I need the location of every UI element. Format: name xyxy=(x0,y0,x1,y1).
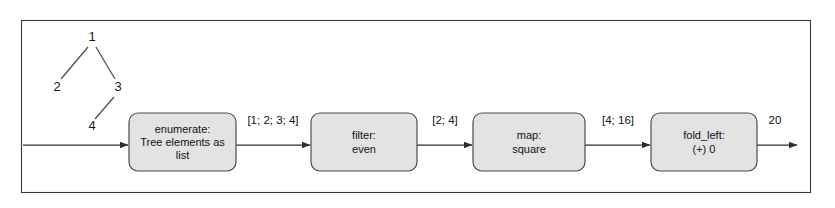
diagram-canvas: 1 2 3 4 enumerate: Tree elements as list… xyxy=(0,0,835,208)
tree-edge-3-4 xyxy=(95,97,114,119)
stage-map-box[interactable] xyxy=(473,113,585,171)
tree-node-1: 1 xyxy=(88,29,95,44)
stage-fold-left-line-1: fold_left: xyxy=(683,129,725,141)
stage-filter-line-1: filter: xyxy=(352,129,376,141)
label-squared-list: [4; 16] xyxy=(602,114,634,126)
stage-fold-left-line-2: (+) 0 xyxy=(693,143,716,155)
tree-edge-1-2 xyxy=(61,47,88,79)
stage-filter-box[interactable] xyxy=(311,113,417,171)
stage-enumerate-line-1: enumerate: xyxy=(155,123,211,135)
stage-fold-left[interactable]: fold_left: (+) 0 xyxy=(651,113,757,171)
tree-graphic: 1 2 3 4 xyxy=(53,29,121,133)
stage-filter-line-2: even xyxy=(352,143,376,155)
stage-map-line-1: map: xyxy=(517,129,541,141)
tree-edge-1-3 xyxy=(96,47,115,79)
stage-fold-left-box[interactable] xyxy=(651,113,757,171)
stage-enumerate-line-3: list xyxy=(176,149,189,161)
stage-enumerate-line-2: Tree elements as xyxy=(140,136,225,148)
pipeline-diagram: 1 2 3 4 enumerate: Tree elements as list… xyxy=(0,0,835,208)
tree-node-2: 2 xyxy=(53,79,60,94)
label-filtered-list: [2; 4] xyxy=(432,114,458,126)
stage-enumerate[interactable]: enumerate: Tree elements as list xyxy=(129,113,236,171)
stage-map[interactable]: map: square xyxy=(473,113,585,171)
label-input-list: [1; 2; 3; 4] xyxy=(247,114,298,126)
label-result: 20 xyxy=(769,114,782,126)
tree-node-3: 3 xyxy=(114,79,121,94)
stage-filter[interactable]: filter: even xyxy=(311,113,417,171)
stage-map-line-2: square xyxy=(512,143,546,155)
tree-node-4: 4 xyxy=(88,118,95,133)
